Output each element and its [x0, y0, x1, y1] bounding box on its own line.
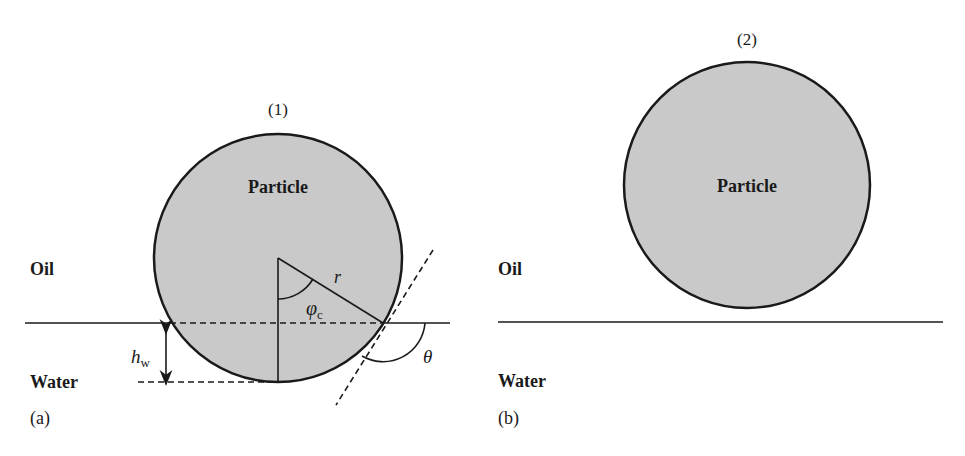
height-label: hw: [131, 346, 151, 370]
particle-label-b: Particle: [717, 176, 777, 196]
state-label-1: (1): [268, 100, 288, 119]
particle-label-a: Particle: [248, 177, 308, 197]
theta-label: θ: [423, 346, 432, 367]
height-subscript: w: [141, 355, 151, 370]
panel-a: (1) Particle Oil Water (a) r φc θ hw: [25, 100, 450, 429]
water-label-a: Water: [30, 372, 78, 392]
radius-label: r: [334, 267, 342, 287]
panel-label-b: (b): [498, 408, 519, 429]
panel-b: (2) Particle Oil Water (b): [498, 30, 943, 429]
oil-label-b: Oil: [498, 259, 522, 279]
height-symbol: h: [131, 346, 141, 367]
particle-interface-diagram: (1) Particle Oil Water (a) r φc θ hw (2)…: [0, 0, 965, 456]
phi-subscript: c: [317, 307, 323, 322]
water-label-b: Water: [498, 371, 546, 391]
oil-label-a: Oil: [30, 259, 54, 279]
panel-label-a: (a): [30, 408, 50, 429]
state-label-2: (2): [737, 30, 757, 49]
phi-symbol: φ: [306, 297, 317, 320]
